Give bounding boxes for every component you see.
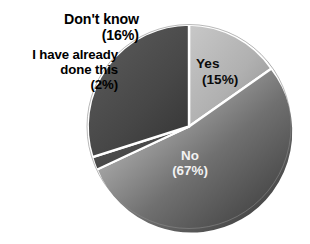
slice-label-already-done-line2: done this bbox=[0, 62, 118, 77]
slice-label-no-percent: (67%) bbox=[145, 163, 235, 178]
slice-label-yes-percent: (15%) bbox=[196, 72, 256, 88]
slice-label-already-done-line1: I have already bbox=[32, 47, 118, 62]
slice-label-yes-text: Yes bbox=[196, 56, 219, 71]
slice-label-no-text: No bbox=[181, 148, 199, 163]
slice-label-dont-know-text: Don't know bbox=[64, 11, 139, 27]
slice-label-dont-know: Don't know (16%) bbox=[0, 11, 139, 43]
slice-label-already-done-percent: (2%) bbox=[0, 77, 118, 92]
slice-label-already-done: I have already done this (2%) bbox=[0, 47, 118, 92]
pie-chart: Don't know (16%) I have already done thi… bbox=[0, 0, 310, 244]
slice-label-yes: Yes (15%) bbox=[196, 56, 256, 87]
slice-label-no: No (67%) bbox=[145, 148, 235, 179]
slice-label-dont-know-percent: (16%) bbox=[0, 27, 139, 43]
